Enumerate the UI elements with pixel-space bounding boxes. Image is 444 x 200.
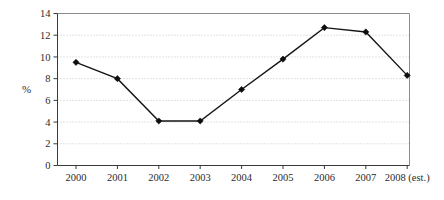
x-tick-label: 2007 bbox=[355, 172, 376, 183]
x-tick-label: 2004 bbox=[231, 172, 253, 183]
y-tick-label: 8 bbox=[45, 73, 50, 84]
y-tick-label: 4 bbox=[45, 117, 51, 128]
y-axis-title: % bbox=[22, 83, 31, 95]
x-tick-label: 2002 bbox=[148, 172, 169, 183]
y-tick-label: 14 bbox=[40, 8, 51, 19]
x-tick-label: 2000 bbox=[66, 172, 87, 183]
line-chart: 0246810121420002001200220032004200520062… bbox=[0, 0, 444, 200]
x-tick-label: 2005 bbox=[273, 172, 294, 183]
x-tick-label: 2001 bbox=[107, 172, 128, 183]
y-tick-label: 10 bbox=[40, 52, 51, 63]
y-tick-label: 6 bbox=[45, 95, 50, 106]
y-tick-label: 12 bbox=[40, 30, 51, 41]
chart-canvas: 0246810121420002001200220032004200520062… bbox=[0, 0, 444, 200]
y-tick-label: 0 bbox=[45, 160, 50, 171]
plot-frame bbox=[58, 14, 410, 166]
x-tick-label: 2003 bbox=[190, 172, 211, 183]
x-tick-label: 2006 bbox=[314, 172, 335, 183]
y-tick-label: 2 bbox=[45, 138, 50, 149]
series-line bbox=[76, 28, 407, 121]
x-tick-label: 2008 (est.) bbox=[385, 172, 430, 184]
data-point-marker bbox=[73, 59, 79, 65]
